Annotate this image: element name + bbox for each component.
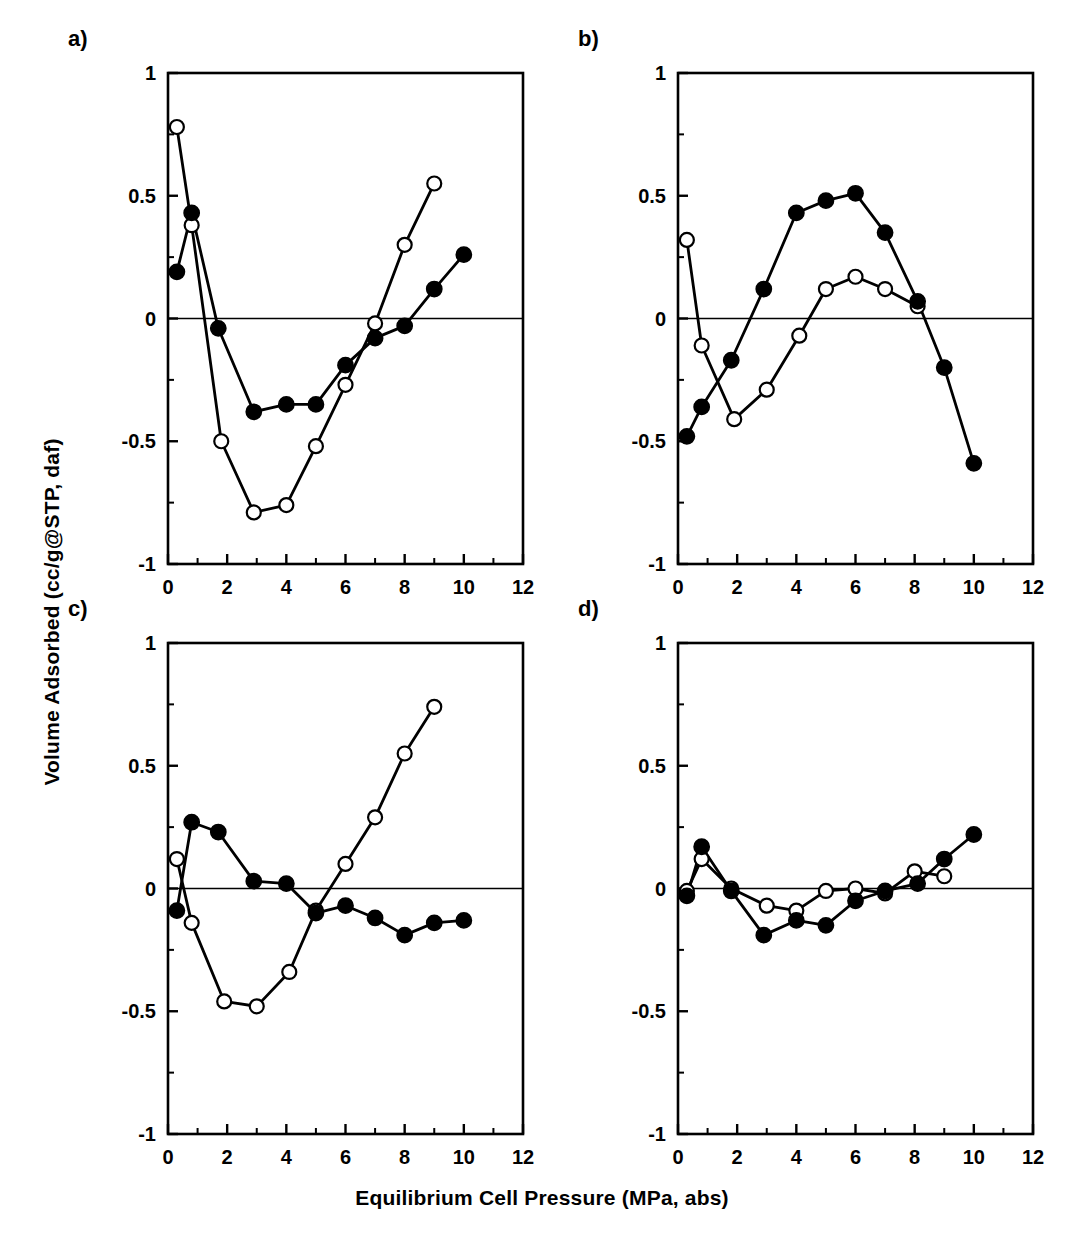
y-tick-label: 0.5 [128,755,156,777]
data-point-filled-circle [427,281,442,296]
x-tick-label: 4 [791,576,803,598]
data-point-filled-circle [679,888,694,903]
y-tick-label: -0.5 [122,430,156,452]
data-point-open-circle [727,412,741,426]
data-point-open-circle [878,282,892,296]
data-point-filled-circle [877,883,892,898]
data-point-filled-circle [246,874,261,889]
x-tick-label: 6 [340,576,351,598]
x-tick-label: 0 [162,576,173,598]
y-tick-label: -1 [648,553,666,575]
x-tick-label: 8 [399,576,410,598]
data-point-filled-circle [937,360,952,375]
y-axis-title: Volume Adsorbed (cc/g@STP, daf) [40,312,64,912]
data-point-open-circle [398,238,412,252]
data-point-open-circle [214,434,228,448]
data-point-filled-circle [789,913,804,928]
data-point-filled-circle [211,321,226,336]
x-tick-label: 10 [963,1146,985,1168]
data-point-filled-circle [724,883,739,898]
x-tick-label: 12 [1022,576,1044,598]
data-point-filled-circle [367,331,382,346]
y-tick-label: 1 [145,632,156,654]
data-point-filled-circle [910,294,925,309]
data-point-filled-circle [169,264,184,279]
x-tick-label: 10 [453,1146,475,1168]
x-axis-title: Equilibrium Cell Pressure (MPa, abs) [0,1186,1084,1210]
data-point-filled-circle [756,928,771,943]
data-point-filled-circle [308,397,323,412]
panel-c-plot: 02468101210.50-0.5-1 [68,598,538,1178]
x-tick-label: 0 [162,1146,173,1168]
data-point-filled-circle [966,827,981,842]
data-point-filled-circle [694,839,709,854]
data-point-open-circle [170,120,184,134]
data-point-open-circle [760,383,774,397]
x-tick-label: 6 [340,1146,351,1168]
data-point-filled-circle [818,193,833,208]
data-point-filled-circle [308,905,323,920]
y-tick-label: 0 [655,308,666,330]
data-point-open-circle [185,916,199,930]
data-point-filled-circle [456,247,471,262]
data-point-filled-circle [456,913,471,928]
x-tick-label: 12 [1022,1146,1044,1168]
data-point-filled-circle [184,815,199,830]
y-tick-label: 0.5 [638,755,666,777]
x-tick-label: 10 [963,576,985,598]
x-tick-label: 4 [281,1146,293,1168]
data-point-filled-circle [397,928,412,943]
figure-container: Volume Adsorbed (cc/g@STP, daf) a) 02468… [0,0,1084,1243]
y-tick-label: 1 [655,62,666,84]
data-point-filled-circle [397,318,412,333]
y-tick-label: -1 [138,1123,156,1145]
data-point-open-circle [368,316,382,330]
data-point-open-circle [760,899,774,913]
data-point-filled-circle [246,404,261,419]
data-point-filled-circle [279,876,294,891]
data-point-open-circle [792,329,806,343]
panel-b-plot: 02468101210.50-0.5-1 [578,28,1048,608]
data-point-filled-circle [789,205,804,220]
data-point-open-circle [309,439,323,453]
data-point-filled-circle [279,397,294,412]
data-point-open-circle [849,270,863,284]
panel-a-plot: 02468101210.50-0.5-1 [68,28,538,608]
x-tick-label: 12 [512,1146,534,1168]
y-tick-label: 0.5 [128,185,156,207]
x-tick-label: 6 [850,1146,861,1168]
data-point-open-circle [819,282,833,296]
x-tick-label: 8 [909,576,920,598]
data-point-filled-circle [169,903,184,918]
x-tick-label: 2 [732,576,743,598]
data-point-filled-circle [679,429,694,444]
data-point-filled-circle [694,399,709,414]
data-point-open-circle [339,857,353,871]
y-tick-label: 1 [145,62,156,84]
data-point-open-circle [398,746,412,760]
y-tick-label: 1 [655,632,666,654]
y-tick-label: 0.5 [638,185,666,207]
data-point-open-circle [282,965,296,979]
panel-d-plot: 02468101210.50-0.5-1 [578,598,1048,1178]
x-tick-label: 0 [672,1146,683,1168]
data-point-filled-circle [338,898,353,913]
data-point-open-circle [368,810,382,824]
data-point-filled-circle [818,918,833,933]
y-tick-label: 0 [145,878,156,900]
x-tick-label: 2 [222,1146,233,1168]
y-tick-label: -0.5 [632,430,666,452]
x-tick-label: 6 [850,576,861,598]
x-tick-label: 4 [791,1146,803,1168]
x-tick-label: 10 [453,576,475,598]
data-point-open-circle [695,339,709,353]
data-point-filled-circle [338,358,353,373]
data-point-open-circle [937,869,951,883]
x-tick-label: 4 [281,576,293,598]
data-point-filled-circle [427,915,442,930]
data-point-filled-circle [367,910,382,925]
data-point-filled-circle [848,186,863,201]
data-point-filled-circle [910,876,925,891]
data-point-open-circle [339,378,353,392]
data-point-open-circle [279,498,293,512]
